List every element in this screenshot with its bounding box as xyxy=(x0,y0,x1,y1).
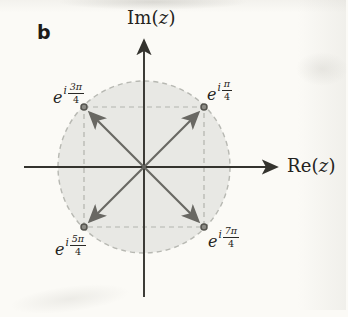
exp-base: e xyxy=(55,240,64,259)
im-axis-label: Im(z) xyxy=(127,7,176,28)
imag-unit: i xyxy=(218,228,221,240)
point-5pi-4 xyxy=(81,224,87,230)
exp-base: e xyxy=(53,88,62,107)
imag-unit: i xyxy=(217,81,220,93)
angle-fraction: π4 xyxy=(222,79,231,101)
re-axis-suffix: ) xyxy=(329,155,336,176)
angle-fraction: 7π4 xyxy=(223,226,238,248)
re-axis-prefix: Re( xyxy=(287,155,319,176)
angle-fraction: 5π4 xyxy=(70,234,85,256)
point-label-7pi-4: ei7π4 xyxy=(208,226,239,248)
panel-label: b xyxy=(37,21,51,43)
re-axis-label: Re(z) xyxy=(287,155,336,176)
imag-unit: i xyxy=(63,84,66,96)
point-7pi-4 xyxy=(201,224,207,230)
exp-base: e xyxy=(208,232,217,251)
exp-base: e xyxy=(207,85,216,104)
im-axis-prefix: Im( xyxy=(127,7,159,28)
im-axis-variable: z xyxy=(159,7,169,28)
point-label-pi-4: eiπ4 xyxy=(207,79,232,101)
point-label-5pi-4: ei5π4 xyxy=(55,234,86,256)
imag-unit: i xyxy=(65,236,68,248)
point-pi-4 xyxy=(201,104,207,110)
point-label-3pi-4: ei3π4 xyxy=(53,82,84,104)
point-3pi-4 xyxy=(81,104,87,110)
angle-fraction: 3π4 xyxy=(68,82,83,104)
im-axis-suffix: ) xyxy=(169,7,176,28)
re-axis-variable: z xyxy=(319,155,329,176)
